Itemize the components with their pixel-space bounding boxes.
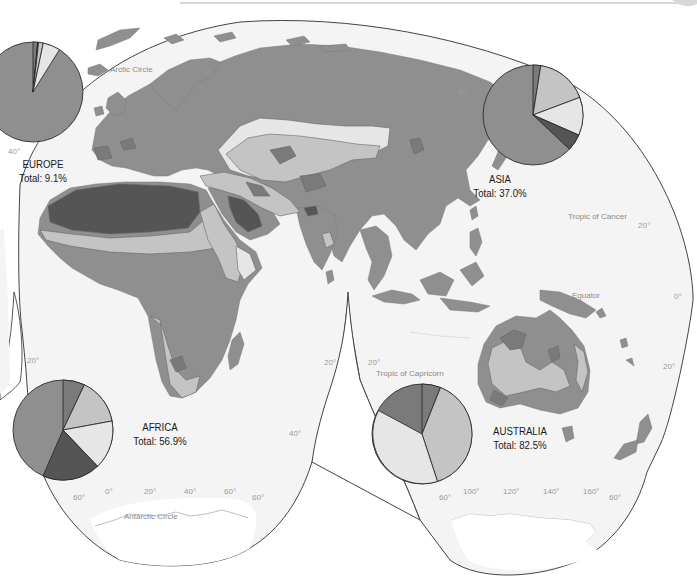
degree-label: 20°: [27, 357, 39, 365]
pie-australia-total: Total: 82.5%: [483, 438, 557, 452]
degree-label: 60°: [73, 494, 85, 502]
degree-label: 20°: [144, 488, 156, 496]
world-map: Arctic Circle Tropic of Cancer Equator T…: [0, 0, 697, 584]
pie-africa-total: Total: 56.9%: [123, 434, 197, 448]
degree-label: 20°: [638, 222, 650, 230]
pie-asia-total: Total: 37.0%: [465, 186, 535, 200]
tropic-of-cancer-label: Tropic of Cancer: [568, 213, 627, 221]
pie-asia-name: ASIA: [465, 172, 535, 186]
pie-africa: [13, 380, 113, 480]
pie-asia-label: ASIA Total: 37.0%: [465, 172, 535, 200]
arctic-circle-label: Arctic Circle: [110, 66, 153, 74]
pie-europe-total: Total: 9.1%: [5, 171, 81, 185]
pie-australia-label: AUSTRALIA Total: 82.5%: [483, 424, 557, 452]
degree-label: 20°: [368, 359, 380, 367]
degree-label: 0°: [105, 488, 113, 496]
antarctica-west: [90, 498, 256, 566]
tropic-of-capricorn-label: Tropic of Capricorn: [376, 370, 444, 378]
antarctic-circle-label: Antarctic Circle: [124, 513, 178, 521]
degree-label: 40°: [8, 148, 20, 156]
pie-europe-name: EUROPE: [5, 157, 81, 171]
far-left-lobe: [0, 228, 10, 394]
antarctica-east: [452, 514, 600, 570]
pie-africa-name: AFRICA: [123, 420, 197, 434]
degree-label: 20°: [663, 363, 675, 371]
pie-asia: [483, 65, 583, 165]
pie-australia-name: AUSTRALIA: [483, 424, 557, 438]
degree-label: 60°: [609, 494, 621, 502]
degree-label: 20°: [324, 359, 336, 367]
pie-africa-label: AFRICA Total: 56.9%: [123, 420, 197, 448]
degree-label: 60°: [224, 488, 236, 496]
degree-label: 160°: [583, 488, 600, 496]
degree-label: 40°: [289, 430, 301, 438]
degree-label: 0°: [674, 293, 682, 301]
degree-label: 40°: [184, 488, 196, 496]
equator-label: Equator: [572, 292, 600, 300]
degree-label: 120°: [503, 488, 520, 496]
pie-australia: [372, 384, 472, 484]
degree-label: 100°: [463, 488, 480, 496]
pie-europe-label: EUROPE Total: 9.1%: [5, 157, 81, 185]
degree-label: 140°: [543, 488, 560, 496]
degree-label: 60°: [252, 494, 264, 502]
degree-label: 60°: [439, 494, 451, 502]
degree-label: 60°: [458, 88, 470, 96]
